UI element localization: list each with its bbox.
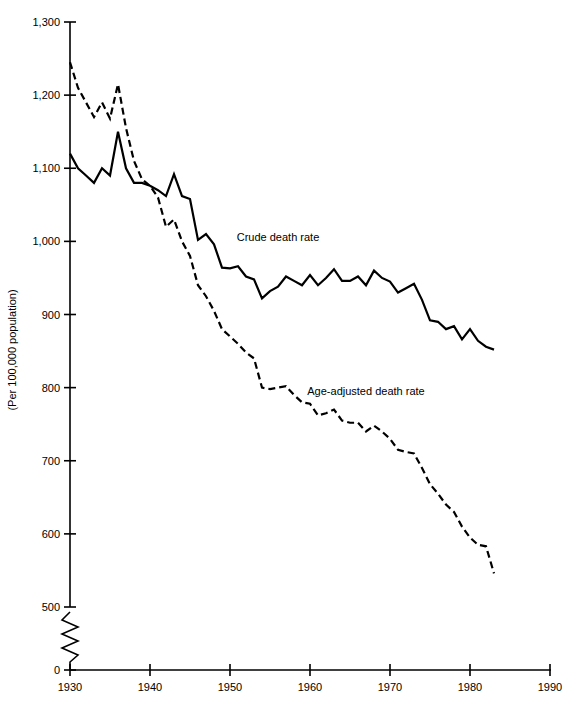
y-tick-label: 600 — [42, 528, 60, 540]
chart-container: 05006007008009001,0001,1001,2001,300 193… — [0, 0, 568, 707]
x-tick-label: 1940 — [138, 681, 162, 693]
y-tick-label: 1,000 — [32, 235, 60, 247]
series-line-age-adjusted-death-rate — [70, 62, 494, 573]
x-tick-label: 1960 — [298, 681, 322, 693]
axis-break-zigzag — [62, 612, 78, 670]
death-rate-line-chart: 05006007008009001,0001,1001,2001,300 193… — [0, 0, 568, 707]
x-tick-label: 1930 — [58, 681, 82, 693]
x-tick-label: 1980 — [458, 681, 482, 693]
y-tick-label: 700 — [42, 455, 60, 467]
series-label-crude-death-rate: Crude death rate — [237, 231, 320, 243]
y-tick-label: 1,200 — [32, 89, 60, 101]
x-tick-label: 1990 — [538, 681, 562, 693]
x-tick-label: 1970 — [378, 681, 402, 693]
y-tick-label: 900 — [42, 309, 60, 321]
x-axis-ticks: 1930194019501960197019801990 — [58, 664, 562, 693]
y-tick-label: 0 — [54, 664, 60, 676]
y-tick-label: 500 — [42, 601, 60, 613]
y-tick-label: 800 — [42, 382, 60, 394]
y-tick-label: 1,300 — [32, 16, 60, 28]
series-annotations: Crude death rateAge-adjusted death rate — [237, 231, 425, 397]
data-series-group — [70, 62, 494, 573]
x-tick-label: 1950 — [218, 681, 242, 693]
series-label-age-adjusted-death-rate: Age-adjusted death rate — [307, 385, 424, 397]
y-tick-label: 1,100 — [32, 162, 60, 174]
y-axis-title: (Per 100,000 population) — [6, 289, 18, 410]
